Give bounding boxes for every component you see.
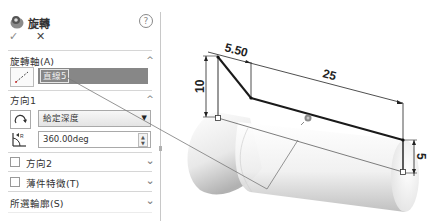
arrowhead [204,112,208,117]
reverse-direction-button[interactable] [10,110,31,129]
expand-thin-feature-icon[interactable]: ⌄ [144,174,156,187]
divider [8,50,152,51]
thin-feature-label: 薄件特徵(T) [26,176,79,190]
direction2-label: 方向2 [26,156,52,170]
feature-title: 旋轉 [28,15,50,31]
cancel-button[interactable]: ✕ [36,30,45,43]
divider [8,191,152,192]
sketch-point[interactable] [249,96,252,99]
end-condition-dropdown[interactable]: 給定深度 ▼ [38,110,151,127]
angle-value: 360.00deg [43,133,89,146]
spin-down-icon[interactable]: ▼ [139,140,147,146]
end-condition-value: 給定深度 [43,112,79,125]
angle-spinner[interactable]: ▲ ▼ [138,133,148,147]
thin-feature-checkbox[interactable] [10,177,20,187]
axis-line-icon [10,67,34,87]
ok-button[interactable]: ✓ [9,30,18,43]
panel-resize-handle[interactable] [159,146,162,151]
arrowhead [412,140,416,145]
preview-edge [240,128,252,192]
angle-input[interactable]: 360.00deg ▲ ▼ [38,131,151,148]
direction2-checkbox[interactable] [10,157,20,167]
arrowhead [412,169,416,174]
dim-right-height[interactable]: 5 [414,153,428,160]
sketch-endpoint[interactable] [401,170,406,175]
dim-left-height[interactable]: 10 [193,79,207,93]
svg-text:R: R [20,133,24,139]
sketch-endpoint[interactable] [216,116,221,121]
sketch-slant-line[interactable] [218,57,251,98]
dropdown-arrow-icon: ▼ [142,112,147,125]
sketch-long-line[interactable] [251,98,403,140]
help-icon[interactable]: ? [139,14,153,28]
preview-cylinder-end [391,140,419,212]
dim-line-top [208,52,403,103]
preview-cylinder [235,122,405,212]
divider [8,152,152,153]
divider [8,212,152,213]
sketch-point[interactable] [216,55,219,58]
divider [8,171,152,172]
arrowhead [397,100,403,104]
sketch-point[interactable] [401,138,404,141]
selected-axis-value: 直線5 [40,69,69,83]
dim-top-width[interactable]: 5.50 [223,40,249,60]
divider [8,90,152,91]
collapse-axis-section-icon[interactable]: ^ [144,55,156,65]
direction1-section-header[interactable]: 方向1 [10,93,36,107]
reverse-direction-icon [11,111,30,128]
expand-direction2-icon[interactable]: ⌄ [144,154,156,167]
preview-cone [187,112,262,194]
arrowhead [204,56,208,61]
angle-icon: R [10,131,28,147]
expand-selected-contours-icon[interactable]: ⌄ [144,194,156,207]
revolve-feature-icon [9,14,25,30]
revolve-axis-line[interactable] [218,118,403,172]
panel-border [160,12,161,221]
axis-section-header[interactable]: 旋轉軸(A) [10,54,54,68]
selected-contours-header[interactable]: 所選輪廓(S) [10,196,63,210]
dim-length[interactable]: 25 [321,66,338,83]
origin-icon [301,115,312,126]
collapse-direction1-icon[interactable]: ^ [144,94,156,104]
axis-selection-field[interactable]: 直線5 [38,68,148,84]
arrowhead [245,60,251,63]
property-manager-panel: 旋轉 ? ✓ ✕ 旋轉軸(A) ^ 直線5 方向1 ^ 給定深度 ▼ R 360… [0,0,160,221]
